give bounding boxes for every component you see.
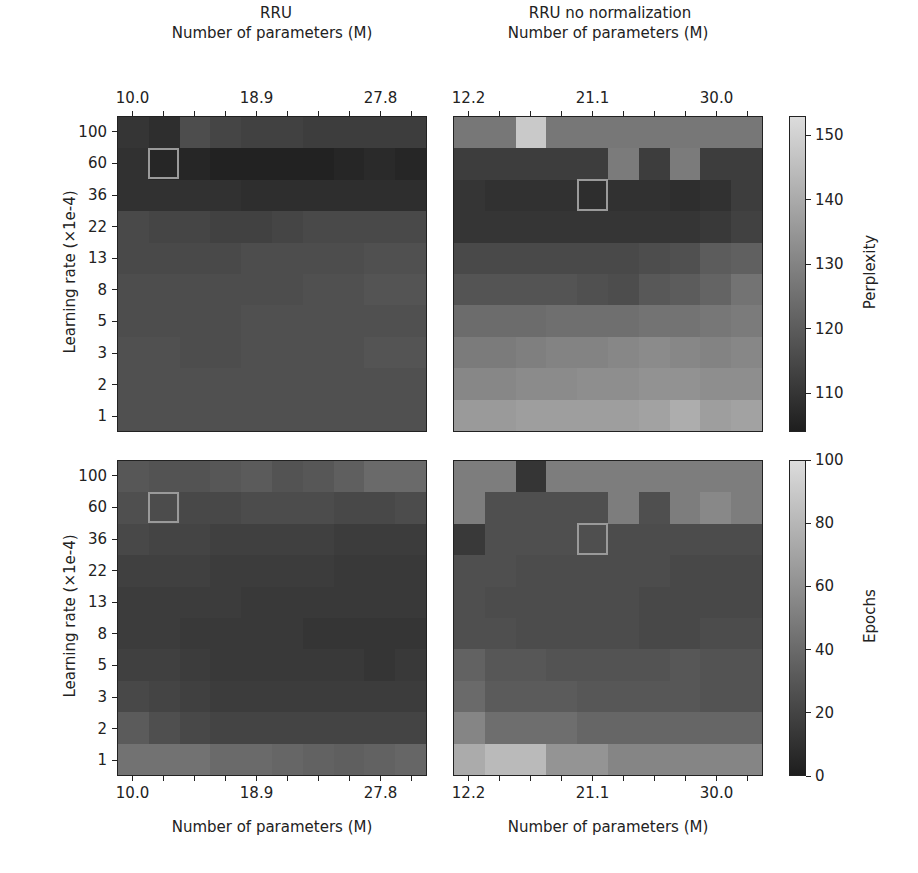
heatmap-cell — [210, 744, 241, 775]
y-tick-label: 2 — [71, 720, 107, 738]
heatmap-cell — [180, 180, 211, 211]
heatmap-cell — [577, 524, 608, 555]
tick-mark — [112, 728, 117, 729]
colorbar-tick-label: 110 — [815, 384, 844, 402]
heatmap-cell — [149, 618, 180, 649]
heatmap-cell — [485, 681, 516, 712]
heatmap-cell — [272, 744, 303, 775]
heatmap-cell — [608, 148, 639, 179]
heatmap-cell — [731, 587, 762, 618]
heatmap-cell — [485, 274, 516, 305]
heatmap-cell — [334, 555, 365, 586]
heatmap-cell — [516, 180, 547, 211]
heatmap-cell — [639, 337, 670, 368]
heatmap-cell — [731, 744, 762, 775]
heatmap-cell — [516, 524, 547, 555]
heatmap-cell — [516, 243, 547, 274]
colorbar-label-perplexity: Perplexity — [861, 222, 879, 322]
heatmap-cell — [241, 400, 272, 431]
heatmap-cell — [395, 461, 426, 492]
heatmap-cell — [700, 681, 731, 712]
heatmap-cell — [210, 368, 241, 399]
heatmap-cell — [731, 461, 762, 492]
heatmap-cell — [731, 555, 762, 586]
heatmap-cell — [546, 492, 577, 523]
heatmap-cell — [639, 180, 670, 211]
heatmap-cell — [303, 744, 334, 775]
ylabel-bottom: Learning rate (×1e-4) — [61, 516, 79, 716]
heatmap-cell — [516, 305, 547, 336]
heatmap-cell — [149, 400, 180, 431]
heatmap-cell — [546, 148, 577, 179]
tick-mark — [530, 776, 531, 781]
top-xlabel-left: Number of parameters (M) — [117, 24, 427, 42]
heatmap-cell — [272, 368, 303, 399]
heatmap-cell — [670, 524, 701, 555]
heatmap-cell — [485, 461, 516, 492]
heatmap-cell — [546, 587, 577, 618]
heatmap-cell — [670, 180, 701, 211]
heatmap-cell — [485, 337, 516, 368]
colorbar-tick-label: 100 — [815, 451, 844, 469]
heatmap-cell — [364, 180, 395, 211]
tick-mark — [623, 776, 624, 781]
y-tick-label: 100 — [71, 123, 107, 141]
heatmap-cell — [608, 524, 639, 555]
heatmap-cell — [395, 744, 426, 775]
heatmap-cell — [731, 368, 762, 399]
heatmap-cell — [670, 274, 701, 305]
heatmap-cell — [700, 400, 731, 431]
x-tick-label: 12.2 — [439, 784, 499, 802]
tick-mark — [654, 111, 655, 116]
heatmap-cell — [180, 243, 211, 274]
heatmap-cell — [210, 243, 241, 274]
heatmap-cell — [210, 555, 241, 586]
heatmap-cell — [546, 368, 577, 399]
tick-mark — [112, 665, 117, 666]
heatmap-cell — [149, 461, 180, 492]
heatmap-cell — [303, 211, 334, 242]
heatmap-cell — [577, 243, 608, 274]
tick-mark — [806, 586, 811, 587]
heatmap-cell — [334, 400, 365, 431]
heatmap-cell — [303, 243, 334, 274]
tick-mark — [806, 712, 811, 713]
heatmap-cell — [731, 243, 762, 274]
tick-mark — [380, 111, 381, 116]
heatmap-cell — [241, 492, 272, 523]
tick-mark — [318, 111, 319, 116]
heatmap-cell — [364, 274, 395, 305]
heatmap-cell — [485, 305, 516, 336]
heatmap-cell — [516, 649, 547, 680]
heatmap-cell — [118, 587, 149, 618]
heatmap-cell — [118, 274, 149, 305]
heatmap-cell — [546, 211, 577, 242]
heatmap-cell — [639, 712, 670, 743]
heatmap-cell — [180, 368, 211, 399]
heatmap-cell — [272, 618, 303, 649]
heatmap-cell — [454, 274, 485, 305]
heatmap-rru-no-norm-perplexity — [453, 116, 763, 432]
heatmap-cell — [577, 368, 608, 399]
heatmap-cell — [608, 305, 639, 336]
tick-mark — [112, 602, 117, 603]
tick-mark — [112, 195, 117, 196]
heatmap-cell — [608, 117, 639, 148]
heatmap-cell — [118, 148, 149, 179]
heatmap-cell — [334, 305, 365, 336]
x-tick-label: 27.8 — [351, 784, 411, 802]
tick-mark — [112, 226, 117, 227]
heatmap-cell — [608, 180, 639, 211]
x-tick-label: 12.2 — [439, 89, 499, 107]
heatmap-cell — [454, 681, 485, 712]
heatmap-cell — [180, 712, 211, 743]
heatmap-cell — [364, 618, 395, 649]
heatmap-cell — [210, 337, 241, 368]
heatmap-cell — [454, 211, 485, 242]
heatmap-cell — [639, 148, 670, 179]
heatmap-cell — [700, 117, 731, 148]
heatmap-cell — [485, 180, 516, 211]
heatmap-cell — [210, 117, 241, 148]
x-tick-label: 10.0 — [103, 89, 163, 107]
tick-mark — [112, 570, 117, 571]
